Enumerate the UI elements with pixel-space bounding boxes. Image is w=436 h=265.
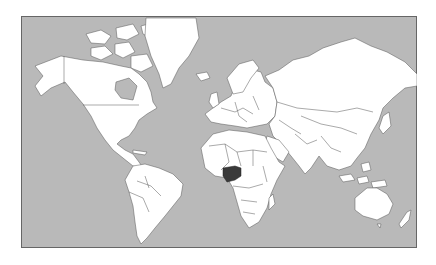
world-map-svg — [21, 16, 417, 248]
world-map — [21, 16, 417, 248]
